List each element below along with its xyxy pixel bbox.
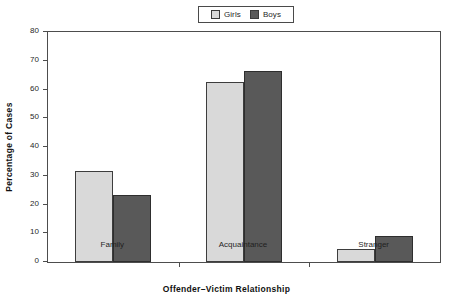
y-axis-tick: 0 (3, 261, 48, 262)
y-axis-tick-label: 10 (30, 226, 39, 237)
y-axis-tick-label: 20 (30, 198, 39, 209)
y-axis-tick-mark (43, 60, 48, 61)
y-axis-tick-label: 70 (30, 54, 39, 65)
y-axis-tick-label: 40 (30, 140, 39, 151)
y-axis-tick: 70 (3, 60, 48, 61)
y-axis-tick: 30 (3, 175, 48, 176)
bar-group-bars (75, 32, 151, 262)
y-axis-title: Percentage of Cases (4, 102, 14, 191)
y-axis-tick-mark (43, 232, 48, 233)
plot-area: 01020304050607080 (47, 31, 441, 263)
legend-item-girls: Girls (211, 10, 241, 19)
y-axis-tick: 50 (3, 117, 48, 118)
y-axis-tick-label: 0 (35, 255, 39, 266)
legend-item-boys: Boys (250, 10, 281, 19)
y-axis-title-holder: Percentage of Cases (12, 31, 26, 263)
bar-group (337, 32, 413, 262)
y-axis-tick: 80 (3, 31, 48, 32)
bar-girls-stranger (337, 249, 375, 262)
chart-legend: Girls Boys (198, 6, 294, 23)
y-axis-tick-label: 80 (30, 25, 39, 36)
bar-boys-family (113, 195, 151, 262)
bar-group (75, 32, 151, 262)
legend-label-girls: Girls (224, 10, 241, 19)
y-axis-tick-mark (43, 89, 48, 90)
y-axis-tick: 60 (3, 89, 48, 90)
bar-girls-acquaintance (206, 82, 244, 262)
y-axis-tick-mark (43, 261, 48, 262)
bar-group-bars (337, 32, 413, 262)
y-axis-tick-mark (43, 31, 48, 32)
x-axis-title: Offender–Victim Relationship (0, 284, 453, 294)
bar-boys-acquaintance (244, 71, 282, 262)
chart-figure: Girls Boys Percentage of Cases 010203040… (0, 0, 453, 306)
legend-label-boys: Boys (263, 10, 281, 19)
x-axis-tick-label: Family (101, 239, 125, 250)
x-axis-tick-label: Acquaintance (219, 239, 267, 250)
y-axis-tick-mark (43, 146, 48, 147)
legend-swatch-boys-icon (250, 10, 259, 19)
y-axis-tick: 10 (3, 232, 48, 233)
x-axis-tick-mark (309, 262, 310, 267)
y-axis-tick-label: 30 (30, 169, 39, 180)
page-edge (0, 302, 453, 306)
y-axis-tick-label: 60 (30, 83, 39, 94)
y-axis-tick-label: 50 (30, 111, 39, 122)
x-axis-tick-mark (179, 262, 180, 267)
legend-swatch-girls-icon (211, 10, 220, 19)
bar-group (206, 32, 282, 262)
x-axis-tick-label: Stranger (358, 239, 389, 250)
y-axis-tick: 40 (3, 146, 48, 147)
y-axis-tick-mark (43, 117, 48, 118)
bar-group-bars (206, 32, 282, 262)
plot-inner: 01020304050607080 (48, 32, 440, 262)
y-axis-tick: 20 (3, 204, 48, 205)
y-axis-tick-mark (43, 175, 48, 176)
y-axis-tick-mark (43, 204, 48, 205)
